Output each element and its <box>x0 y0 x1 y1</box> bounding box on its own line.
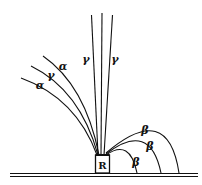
alpha-label-inner: α <box>59 60 68 73</box>
gamma-ray-center <box>101 13 102 155</box>
source-label: R <box>98 160 107 171</box>
beta-label-inner: β <box>131 156 140 169</box>
gamma-label-left: γ <box>82 53 90 66</box>
gamma-vertical-rays <box>92 13 113 155</box>
diagram-canvas: R γ γ α γ α β β β <box>0 0 202 185</box>
beta-label-outer: β <box>140 124 149 137</box>
alpha-label-outer: α <box>36 79 45 92</box>
beta-arcs <box>106 131 179 173</box>
ray-labels: γ γ α γ α β β β <box>36 53 155 169</box>
gamma-label-curved: γ <box>47 69 55 82</box>
gamma-label-right: γ <box>111 53 119 66</box>
alpha-curve-outer <box>21 78 97 155</box>
radium-source-box: R <box>96 155 110 173</box>
ground-plate <box>10 174 198 177</box>
gamma-ray-right <box>104 15 113 155</box>
gamma-ray-left <box>92 15 99 155</box>
beta-label-middle: β <box>145 140 154 153</box>
radiation-deflection-diagram: R γ γ α γ α β β β <box>0 0 202 185</box>
beta-arc-outer <box>106 131 179 173</box>
